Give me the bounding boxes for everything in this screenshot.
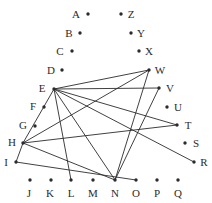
graph-node-V[interactable]	[157, 86, 160, 89]
graph-node-K[interactable]	[49, 178, 52, 181]
graph-edge-H-T	[23, 125, 177, 143]
edge-layer	[16, 70, 194, 180]
graph-node-S[interactable]	[183, 141, 186, 144]
graph-node-B[interactable]	[78, 31, 81, 34]
graph-node-E[interactable]	[52, 87, 55, 90]
graph-node-W[interactable]	[147, 68, 150, 71]
graph-node-Y[interactable]	[129, 31, 132, 34]
point-diagram-figure: ABCDEFGHIJKLMNOPQRSTUVWXYZ	[0, 0, 212, 203]
graph-edge-N-V	[115, 88, 159, 180]
graph-edge-E-L	[54, 89, 71, 180]
graph-node-O[interactable]	[134, 178, 137, 181]
graph-edge-E-T	[54, 89, 177, 125]
graph-node-A[interactable]	[86, 12, 89, 15]
graph-node-F[interactable]	[42, 105, 45, 108]
graph-node-R[interactable]	[192, 160, 195, 163]
graph-node-X[interactable]	[137, 49, 140, 52]
graph-edge-H-I	[16, 143, 23, 162]
graph-node-N[interactable]	[113, 178, 116, 181]
graph-node-H[interactable]	[21, 141, 24, 144]
graph-node-M[interactable]	[91, 178, 94, 181]
graph-edge-E-W	[54, 70, 149, 89]
graph-node-D[interactable]	[60, 68, 63, 71]
graph-node-P[interactable]	[155, 178, 158, 181]
graph-node-Q[interactable]	[176, 178, 179, 181]
graph-node-T[interactable]	[175, 123, 178, 126]
graph-node-U[interactable]	[165, 105, 168, 108]
graph-node-C[interactable]	[70, 49, 73, 52]
graph-canvas	[0, 0, 212, 203]
graph-edge-E-N	[54, 89, 115, 180]
graph-node-L[interactable]	[69, 178, 72, 181]
graph-node-I[interactable]	[14, 160, 17, 163]
graph-node-Z[interactable]	[119, 12, 122, 15]
graph-edge-E-H	[23, 89, 54, 143]
graph-node-J[interactable]	[28, 178, 31, 181]
node-layer	[14, 12, 195, 181]
graph-node-G[interactable]	[33, 124, 36, 127]
